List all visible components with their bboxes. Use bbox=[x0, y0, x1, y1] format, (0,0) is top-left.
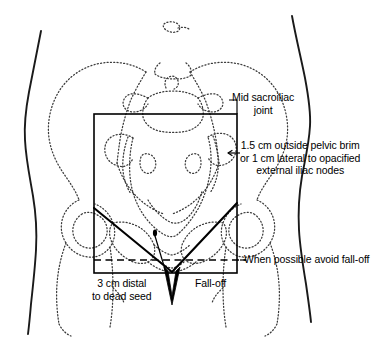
annotation-line: When possible avoid fall-off bbox=[244, 253, 369, 266]
pelvic-bones-group bbox=[48, 22, 287, 336]
annotation-line: to dead seed bbox=[92, 290, 152, 303]
iliac-wing-left bbox=[48, 62, 146, 200]
obturator-foramen-right bbox=[181, 222, 226, 263]
femoral-head-left bbox=[73, 212, 107, 248]
sacrum-lower-curve bbox=[148, 191, 202, 223]
annotation-line: joint bbox=[232, 104, 294, 117]
vertebra-transverse-right bbox=[198, 94, 223, 112]
midline-block-group bbox=[94, 203, 237, 272]
field-box bbox=[94, 114, 237, 273]
vertebra-disc-upper bbox=[155, 63, 192, 74]
dead-seed-marker bbox=[153, 230, 157, 237]
block-edge-left bbox=[94, 208, 172, 272]
annotation-line: Mid sacroiliac bbox=[232, 91, 294, 104]
femoral-head-right bbox=[229, 212, 263, 248]
sacrum-outline bbox=[130, 137, 211, 237]
bowel-gas-shadow bbox=[163, 22, 179, 33]
vertebra-transverse-left bbox=[123, 94, 148, 112]
pelvic-brim-arrow bbox=[228, 151, 240, 156]
pelvic-field-diagram: Mid sacroiliac joint 1.5 cm outside pelv… bbox=[0, 0, 390, 339]
annotation-dead-seed: 3 cm distal to dead seed bbox=[92, 277, 152, 302]
iliac-wing-right-inner bbox=[190, 72, 219, 163]
obturator-foramen-left bbox=[110, 222, 155, 263]
vertebra-l5-body bbox=[143, 91, 204, 133]
annotation-pelvic-brim: 1.5 cm outside pelvic brim or 1 cm later… bbox=[240, 139, 360, 177]
annotation-line: Fall-off bbox=[195, 277, 226, 290]
trochanter-right bbox=[212, 288, 277, 336]
sacrum-foramina-left bbox=[140, 154, 156, 174]
body-outline-left bbox=[25, 31, 41, 334]
dead-seed-leader-line bbox=[155, 236, 167, 276]
annotation-avoid-falloff: When possible avoid fall-off bbox=[244, 253, 369, 266]
iliac-wing-left-inner bbox=[117, 72, 146, 163]
sacrum-foramina-right bbox=[185, 154, 201, 174]
annotation-line: 3 cm distal bbox=[92, 277, 152, 290]
annotation-line: 1.5 cm outside pelvic brim bbox=[240, 139, 360, 152]
annotation-mid-sacroiliac-joint: Mid sacroiliac joint bbox=[232, 91, 294, 116]
pubic-symphysis bbox=[154, 245, 190, 268]
iliac-wing-right bbox=[190, 62, 288, 200]
annotation-line: external iliac nodes bbox=[240, 164, 360, 177]
sacrum-ala-right bbox=[208, 133, 236, 165]
annotation-line: or 1 cm lateral to opacified bbox=[240, 152, 360, 165]
annotation-falloff: Fall-off bbox=[195, 277, 226, 290]
pelvic-brim-left bbox=[117, 163, 164, 214]
